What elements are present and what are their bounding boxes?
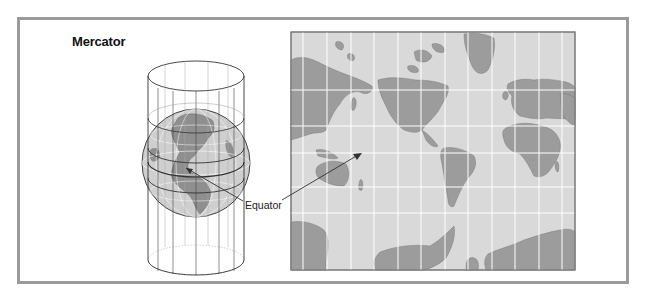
- mercator-map: [291, 32, 575, 270]
- cylinder-globe-illustration: [142, 61, 250, 275]
- equator-label: Equator: [245, 199, 282, 211]
- projection-diagram: [0, 0, 645, 298]
